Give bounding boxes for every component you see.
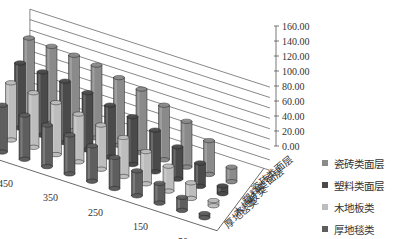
svg-text:0.00: 0.00: [282, 141, 300, 152]
bar: [132, 169, 143, 198]
legend-swatch-icon: [322, 182, 328, 188]
legend-item: 木地板类: [322, 196, 401, 218]
bar: [19, 113, 30, 162]
svg-text:100.00: 100.00: [282, 66, 310, 77]
bar: [154, 181, 165, 205]
bar: [226, 165, 237, 184]
bar: [42, 123, 53, 169]
legend-label: 木地板类: [334, 200, 374, 215]
legend-label: 塑料类面层: [334, 178, 384, 193]
bar: [0, 103, 8, 154]
svg-text:80.00: 80.00: [282, 81, 305, 92]
legend: 瓷砖类面层 塑料类面层 木地板类 厚地毯类: [322, 152, 401, 239]
legend-swatch-icon: [322, 226, 328, 232]
svg-text:140.00: 140.00: [282, 36, 310, 47]
svg-text:60.00: 60.00: [282, 96, 305, 107]
legend-item: 厚地毯类: [322, 218, 401, 239]
bar: [64, 133, 75, 176]
bar: [199, 211, 210, 220]
svg-text:40.00: 40.00: [282, 111, 305, 122]
svg-text:450: 450: [0, 178, 13, 189]
bar: [208, 198, 219, 208]
legend-swatch-icon: [322, 204, 328, 210]
bar: [217, 184, 228, 196]
bar: [177, 195, 188, 212]
svg-text:350: 350: [43, 192, 58, 203]
svg-text:20.00: 20.00: [282, 126, 305, 137]
svg-text:50: 50: [178, 236, 188, 239]
bar: [87, 144, 98, 184]
svg-text:160.00: 160.00: [282, 21, 310, 32]
bar: [109, 155, 120, 191]
legend-item: 塑料类面层: [322, 174, 401, 196]
svg-text:150: 150: [133, 221, 148, 232]
legend-item: 瓷砖类面层: [322, 152, 401, 174]
svg-text:250: 250: [88, 207, 103, 218]
legend-swatch-icon: [322, 160, 328, 166]
legend-label: 瓷砖类面层: [334, 156, 384, 171]
legend-label: 厚地毯类: [334, 222, 374, 237]
svg-text:瓷砖类面层: 瓷砖类面层: [249, 153, 295, 194]
svg-text:120.00: 120.00: [282, 51, 310, 62]
